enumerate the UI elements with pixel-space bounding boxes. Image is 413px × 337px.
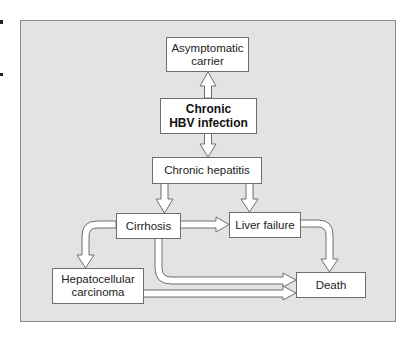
node-hcc-line2: carcinoma: [61, 286, 135, 299]
node-chronic-hbv-infection: Chronic HBV infection: [160, 98, 257, 134]
node-asymptomatic-carrier-line1: Asymptomatic: [171, 42, 243, 55]
arrow-hbv-to-carrier: [200, 72, 216, 98]
arrow-hcc-to-death: [143, 286, 296, 300]
arrow-hepatitis-to-liver-failure: [241, 183, 258, 212]
node-chronic-hepatitis: Chronic hepatitis: [152, 157, 262, 184]
node-hcc-line1: Hepatocellular: [61, 273, 135, 286]
node-liver-failure: Liver failure: [229, 212, 301, 238]
node-chronic-hbv-line1: Chronic: [169, 102, 248, 116]
node-liver-failure-label: Liver failure: [235, 219, 294, 232]
node-chronic-hbv-line2: HBV infection: [169, 116, 248, 130]
node-asymptomatic-carrier: Asymptomatic carrier: [166, 37, 249, 72]
node-cirrhosis-label: Cirrhosis: [126, 220, 171, 233]
node-chronic-hepatitis-label: Chronic hepatitis: [164, 164, 250, 177]
node-hepatocellular-carcinoma: Hepatocellular carcinoma: [52, 268, 144, 304]
node-asymptomatic-carrier-line2: carrier: [171, 55, 243, 68]
arrow-hepatitis-to-cirrhosis: [156, 183, 173, 213]
arrow-cirrhosis-to-death: [155, 238, 296, 287]
arrow-cirrhosis-to-liver-failure: [180, 217, 229, 232]
arrow-cirrhosis-to-hcc: [77, 221, 116, 268]
node-death-label: Death: [316, 279, 347, 292]
arrow-liver-failure-to-death: [300, 220, 338, 272]
arrow-hbv-to-hepatitis: [200, 133, 216, 157]
node-cirrhosis: Cirrhosis: [116, 213, 181, 239]
node-death: Death: [296, 272, 366, 298]
